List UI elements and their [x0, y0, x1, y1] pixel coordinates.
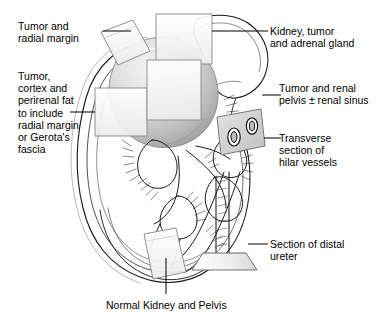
- figure-radical-nephrectomy-specimen: Tumor and radial margin Tumor, cortex an…: [0, 0, 391, 323]
- label-tumor-and-radial-margin: Tumor and radial margin: [18, 20, 79, 44]
- label-tumor-cortex-perirenal-fat: Tumor, cortex and perirenal fat to inclu…: [18, 70, 79, 155]
- plane-distal-ureter: [192, 253, 257, 270]
- plane-tumor-renal-pelvis: [147, 60, 201, 120]
- label-normal-kidney-and-pelvis: Normal Kidney and Pelvis: [106, 299, 227, 311]
- plane-hilar-vessels: [217, 109, 265, 155]
- plane-tumor-cortex-perirenal: [95, 88, 147, 136]
- plane-normal-kidney-pelvis: [144, 228, 186, 279]
- label-kidney-tumor-adrenal-gland: Kidney, tumor and adrenal gland: [270, 25, 354, 49]
- label-transverse-section-hilar-vessels: Transverse section of hilar vessels: [279, 132, 337, 169]
- plane-kidney-tumor-adrenal: [156, 14, 212, 64]
- label-section-of-distal-ureter: Section of distal ureter: [270, 238, 344, 262]
- label-tumor-and-renal-pelvis: Tumor and renal pelvis ± renal sinus: [279, 82, 369, 106]
